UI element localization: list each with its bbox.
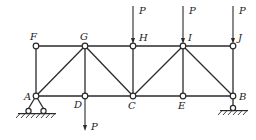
- joint-h: [130, 43, 136, 49]
- node-label-h: H: [138, 32, 148, 43]
- joint-f: [33, 43, 39, 49]
- truss-joints: [33, 43, 236, 99]
- node-label-c: C: [128, 100, 136, 111]
- load-label: P: [188, 5, 196, 16]
- load-label: P: [138, 5, 146, 16]
- joint-e: [180, 93, 186, 99]
- node-label-j: J: [236, 32, 243, 43]
- member-gc: [85, 46, 133, 96]
- member-ci: [133, 46, 183, 96]
- node-labels: FGHIJADCEB: [23, 31, 246, 111]
- joint-c: [130, 93, 136, 99]
- roller-icon: [41, 108, 46, 113]
- node-label-b: B: [238, 91, 246, 102]
- node-label-g: G: [80, 31, 88, 42]
- roller-icon: [26, 108, 31, 113]
- ground-hatch-icon: [218, 111, 247, 115]
- truss-diagram: PPPP FGHIJADCEB: [0, 0, 256, 140]
- roller-icon: [230, 105, 235, 110]
- truss-members: [36, 46, 233, 96]
- joint-b: [230, 93, 236, 99]
- node-label-f: F: [29, 31, 38, 42]
- joint-g: [82, 43, 88, 49]
- arrow-down-icon: [83, 125, 87, 131]
- joint-a: [33, 93, 39, 99]
- node-label-i: I: [187, 32, 193, 43]
- load-p-at-d: P: [83, 98, 98, 132]
- load-label: P: [90, 121, 98, 132]
- joint-i: [180, 43, 186, 49]
- load-label: P: [238, 5, 246, 16]
- node-label-a: A: [23, 91, 31, 102]
- member-ag: [36, 46, 85, 96]
- member-ib: [183, 46, 233, 96]
- ground-hatch-icon: [16, 114, 55, 118]
- node-label-e: E: [177, 100, 186, 111]
- joint-d: [82, 93, 88, 99]
- joint-j: [230, 43, 236, 49]
- node-label-d: D: [73, 99, 82, 110]
